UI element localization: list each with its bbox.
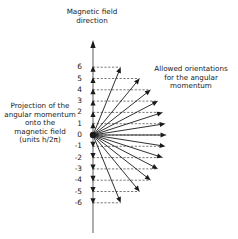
m-value-label: -5 — [68, 188, 82, 196]
m-value-label: 6 — [68, 63, 82, 71]
m-value-label: -2 — [68, 154, 82, 162]
vector-arrowhead-icon — [156, 153, 162, 158]
diagram-stage: Magnetic field direction Allowed orienta… — [0, 0, 238, 239]
vector-arrowhead-icon — [161, 132, 167, 137]
magnetic-field-direction-label: Magnetic field direction — [62, 8, 122, 25]
vector-arrowhead-icon — [145, 175, 151, 180]
angular-momentum-vector — [93, 135, 160, 157]
angular-momentum-vector — [93, 92, 148, 135]
vector-arrowhead-icon — [159, 143, 165, 148]
m-value-label: -6 — [68, 199, 82, 207]
allowed-orientations-label: Allowed orientations for the angular mom… — [150, 65, 232, 91]
m-value-label: -3 — [68, 165, 82, 173]
m-value-label: -4 — [68, 176, 82, 184]
m-value-label: -1 — [68, 142, 82, 150]
angular-momentum-vector — [93, 135, 120, 200]
m-value-label: 4 — [68, 86, 82, 94]
axis-arrowhead-icon — [90, 40, 95, 48]
vector-arrowhead-icon — [159, 122, 165, 127]
m-value-label: 1 — [68, 120, 82, 128]
orientation-line: momentum — [150, 82, 232, 91]
angular-momentum-vector — [93, 135, 138, 189]
vector-arrowhead-icon — [156, 112, 162, 117]
angular-momentum-vector — [93, 135, 148, 178]
angular-momentum-vector — [93, 70, 120, 135]
m-value-label: 0 — [68, 131, 82, 139]
m-value-label: 5 — [68, 75, 82, 83]
origin-dot — [90, 132, 96, 138]
projection-label: Projection of the angular momentum onto … — [4, 102, 76, 145]
m-value-label: 3 — [68, 97, 82, 105]
angular-momentum-vector — [93, 81, 138, 135]
title-line: direction — [62, 17, 122, 26]
m-value-label: 2 — [68, 108, 82, 116]
angular-momentum-vector — [93, 113, 160, 135]
projection-line: (units h/2π) — [4, 136, 76, 145]
